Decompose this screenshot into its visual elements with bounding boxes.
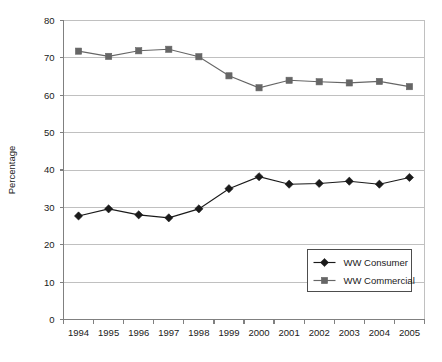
x-tick-label-2000: 2000 [248,327,269,338]
gridlines [64,21,425,283]
y-tick-label-30: 30 [44,202,55,213]
series-ww-commercial-marker-6 [256,85,262,91]
series-ww-commercial [75,46,412,91]
legend-swatch-ww-commercial-marker-1 [321,277,327,283]
series-ww-consumer-marker-6 [255,173,263,181]
series-ww-commercial-marker-0 [75,48,81,54]
x-tick-label-2002: 2002 [309,327,330,338]
x-tick-label-2001: 2001 [279,327,300,338]
x-tick-label-2004: 2004 [369,327,390,338]
series-ww-commercial-marker-9 [346,80,352,86]
legend-label-ww-commercial: WW Commercial [344,275,415,286]
x-tick-label-1995: 1995 [98,327,119,338]
y-tick-label-50: 50 [44,127,55,138]
x-tick-label-1997: 1997 [158,327,179,338]
series-ww-consumer-marker-0 [74,212,82,220]
series-ww-commercial-marker-2 [136,48,142,54]
y-axis-title: Percentage [6,146,17,195]
y-tick-label-20: 20 [44,239,55,250]
x-tick-label-1999: 1999 [218,327,239,338]
series-ww-consumer-marker-11 [405,173,413,181]
x-axis-ticks: 1994199519961997199819992000200120022003… [64,320,425,338]
series-line-ww-commercial [79,49,410,87]
y-tick-label-40: 40 [44,164,55,175]
series-ww-consumer [74,173,413,222]
series-ww-commercial-marker-7 [286,77,292,83]
series-ww-consumer-marker-2 [135,211,143,219]
line-chart: 01020304050607080 1994199519961997199819… [0,0,442,362]
y-tick-label-80: 80 [44,15,55,26]
series-ww-commercial-marker-5 [226,73,232,79]
series-line-ww-consumer [79,177,410,218]
series-ww-commercial-marker-8 [316,79,322,85]
x-tick-label-1998: 1998 [188,327,209,338]
legend-label-ww-consumer: WW Consumer [344,257,408,268]
y-tick-label-60: 60 [44,90,55,101]
x-tick-label-2003: 2003 [339,327,360,338]
series-ww-commercial-marker-11 [406,84,412,90]
series-ww-consumer-marker-5 [225,185,233,193]
x-tick-label-1994: 1994 [68,327,89,338]
series-ww-consumer-marker-7 [285,180,293,188]
chart-legend: WW ConsumerWW Commercial [308,250,415,292]
y-tick-label-0: 0 [49,314,54,325]
series-ww-consumer-marker-8 [315,179,323,187]
series-ww-commercial-marker-10 [376,78,382,84]
series-ww-consumer-marker-9 [345,177,353,185]
x-tick-label-2005: 2005 [399,327,420,338]
series-ww-consumer-marker-10 [375,180,383,188]
series-ww-consumer-marker-3 [165,214,173,222]
series-ww-consumer-marker-4 [195,205,203,213]
series-ww-consumer-marker-1 [105,205,113,213]
series-ww-commercial-marker-1 [106,53,112,59]
x-tick-label-1996: 1996 [128,327,149,338]
y-tick-label-70: 70 [44,52,55,63]
series-ww-commercial-marker-3 [166,46,172,52]
y-axis-ticks: 01020304050607080 [44,15,64,325]
y-axis-label: Percentage [6,146,17,195]
y-tick-label-10: 10 [44,277,55,288]
chart-container: 01020304050607080 1994199519961997199819… [0,0,442,362]
data-series [74,46,413,222]
series-ww-commercial-marker-4 [196,54,202,60]
